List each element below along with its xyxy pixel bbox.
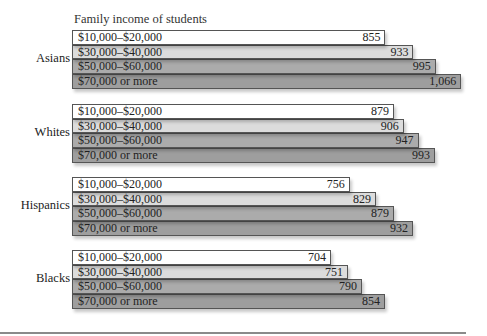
category-label: $50,000–$60,000 <box>78 280 162 293</box>
category-label: $10,000–$20,000 <box>78 105 162 118</box>
category-label: $70,000 or more <box>78 295 158 308</box>
category-label: $10,000–$20,000 <box>78 251 162 264</box>
bar: $10,000–$20,000855 <box>72 30 385 45</box>
bar: $30,000–$40,000829 <box>72 192 376 207</box>
category-label: $50,000–$60,000 <box>78 60 162 73</box>
chart-title: Family income of students <box>74 12 207 27</box>
value-label: 993 <box>412 149 430 162</box>
bar: $10,000–$20,000879 <box>72 104 394 119</box>
bottom-rule <box>0 332 466 334</box>
value-label: 756 <box>327 178 345 191</box>
value-label: 855 <box>362 31 380 44</box>
group-asians: Asians$10,000–$20,000855$30,000–$40,0009… <box>0 30 487 90</box>
value-label: 947 <box>396 134 414 147</box>
group-hispanics: Hispanics$10,000–$20,000756$30,000–$40,0… <box>0 177 487 237</box>
value-label: 854 <box>362 295 380 308</box>
bar: $30,000–$40,000906 <box>72 119 404 134</box>
value-label: 879 <box>371 207 389 220</box>
group-whites: Whites$10,000–$20,000879$30,000–$40,0009… <box>0 104 487 164</box>
category-label: $70,000 or more <box>78 75 158 88</box>
bar: $70,000 or more932 <box>72 221 413 236</box>
group-blacks: Blacks$10,000–$20,000704$30,000–$40,0007… <box>0 250 487 310</box>
value-label: 704 <box>308 251 326 264</box>
value-label: 1,066 <box>429 75 456 88</box>
category-label: $10,000–$20,000 <box>78 31 162 44</box>
value-label: 829 <box>353 193 371 206</box>
group-label: Hispanics <box>21 198 70 213</box>
bar: $50,000–$60,000947 <box>72 133 419 148</box>
bar: $70,000 or more993 <box>72 148 435 163</box>
category-label: $50,000–$60,000 <box>78 134 162 147</box>
value-label: 790 <box>339 280 357 293</box>
value-label: 933 <box>390 46 408 59</box>
value-label: 906 <box>381 120 399 133</box>
bar: $30,000–$40,000751 <box>72 265 348 280</box>
bar: $50,000–$60,000790 <box>72 279 362 294</box>
group-label: Blacks <box>36 271 70 286</box>
category-label: $10,000–$20,000 <box>78 178 162 191</box>
value-label: 932 <box>390 222 408 235</box>
value-label: 751 <box>325 266 343 279</box>
bar: $70,000 or more1,066 <box>72 74 461 89</box>
category-label: $30,000–$40,000 <box>78 193 162 206</box>
bar: $10,000–$20,000756 <box>72 177 350 192</box>
bar: $50,000–$60,000995 <box>72 59 436 74</box>
value-label: 879 <box>371 105 389 118</box>
category-label: $30,000–$40,000 <box>78 266 162 279</box>
category-label: $30,000–$40,000 <box>78 120 162 133</box>
category-label: $70,000 or more <box>78 222 158 235</box>
value-label: 995 <box>413 60 431 73</box>
category-label: $30,000–$40,000 <box>78 46 162 59</box>
bar: $10,000–$20,000704 <box>72 250 331 265</box>
bar: $50,000–$60,000879 <box>72 206 394 221</box>
bar: $30,000–$40,000933 <box>72 45 413 60</box>
group-label: Whites <box>35 125 70 140</box>
group-label: Asians <box>36 51 70 66</box>
category-label: $50,000–$60,000 <box>78 207 162 220</box>
category-label: $70,000 or more <box>78 149 158 162</box>
bar: $70,000 or more854 <box>72 294 385 309</box>
